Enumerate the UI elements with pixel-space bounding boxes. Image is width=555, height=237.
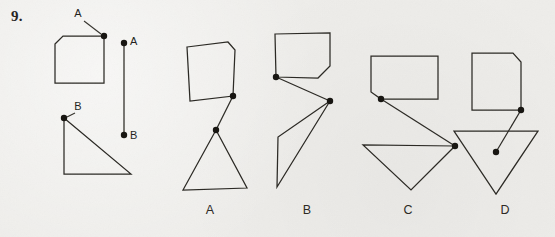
option-b-connector (276, 77, 330, 101)
option-c-point-b (452, 143, 458, 149)
prompt-pentagon-label-a: A (74, 7, 82, 19)
option-b-point-b (327, 98, 333, 104)
answer-options-layer: ABCD (183, 33, 538, 217)
option-b-label: B (303, 203, 311, 217)
option-c-pentagon (371, 56, 438, 99)
option-a-label: A (206, 203, 215, 217)
option-d-pentagon (472, 53, 521, 110)
option-d-label: D (500, 203, 509, 217)
option-d-point-b (493, 149, 499, 155)
option-a-connector (216, 96, 233, 130)
option-a-point-a (230, 93, 236, 99)
prompt-triangle-group: B (61, 100, 131, 174)
answer-option-b[interactable]: B (273, 33, 333, 217)
question-page: 9. A B A B ABCD (0, 0, 555, 237)
prompt-triangle-point-b (61, 115, 67, 121)
option-c-connector (381, 99, 455, 146)
prompt-pentagon-point-a (101, 33, 107, 39)
answer-option-c[interactable]: C (363, 56, 458, 217)
prompt-connector-endpoint-a (121, 40, 127, 46)
prompt-connector-label-a: A (130, 35, 138, 47)
prompt-triangle-label-b: B (74, 100, 81, 112)
option-b-pentagon (275, 33, 330, 78)
option-b-point-a (273, 74, 279, 80)
prompt-connector-group: A B (121, 35, 138, 141)
option-a-pentagon (187, 42, 235, 101)
prompt-triangle-shape (64, 118, 131, 174)
prompt-triangle-leader-line (67, 113, 75, 117)
option-a-point-b (213, 127, 219, 133)
option-c-triangle (363, 145, 455, 190)
prompt-pentagon-leader-line (84, 21, 101, 34)
prompt-pentagon-shape (55, 36, 104, 83)
prompt-pentagon-group: A (55, 7, 107, 83)
figure-canvas: A B A B ABCD (0, 0, 555, 237)
option-a-triangle (183, 130, 247, 190)
option-d-point-a (518, 107, 524, 113)
option-d-triangle (454, 131, 538, 194)
prompt-connector-endpoint-b (121, 132, 127, 138)
prompt-connector-label-b: B (130, 129, 137, 141)
option-c-point-a (378, 96, 384, 102)
answer-option-a[interactable]: A (183, 42, 247, 217)
option-b-triangle (277, 101, 330, 187)
option-c-label: C (403, 203, 412, 217)
answer-option-d[interactable]: D (454, 53, 538, 217)
